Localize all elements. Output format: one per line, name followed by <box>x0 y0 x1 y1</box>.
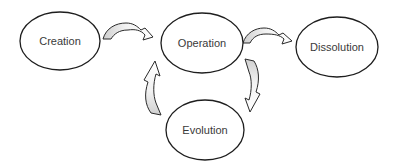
node-evolution-label: Evolution <box>182 124 227 136</box>
node-dissolution-label: Dissolution <box>310 41 364 53</box>
node-evolution: Evolution <box>166 100 244 160</box>
node-creation-label: Creation <box>39 35 81 47</box>
node-operation-label: Operation <box>178 37 226 49</box>
node-creation: Creation <box>20 12 100 70</box>
arrow-creation-to-operation <box>103 23 153 40</box>
node-operation: Operation <box>161 13 243 73</box>
arrow-operation-to-dissolution <box>243 28 292 44</box>
arrow-evolution-to-operation <box>144 61 161 115</box>
arrow-operation-to-evolution <box>245 59 260 112</box>
node-dissolution: Dissolution <box>296 17 378 77</box>
lifecycle-diagram: Creation Operation Dissolution Evolution <box>0 0 395 164</box>
